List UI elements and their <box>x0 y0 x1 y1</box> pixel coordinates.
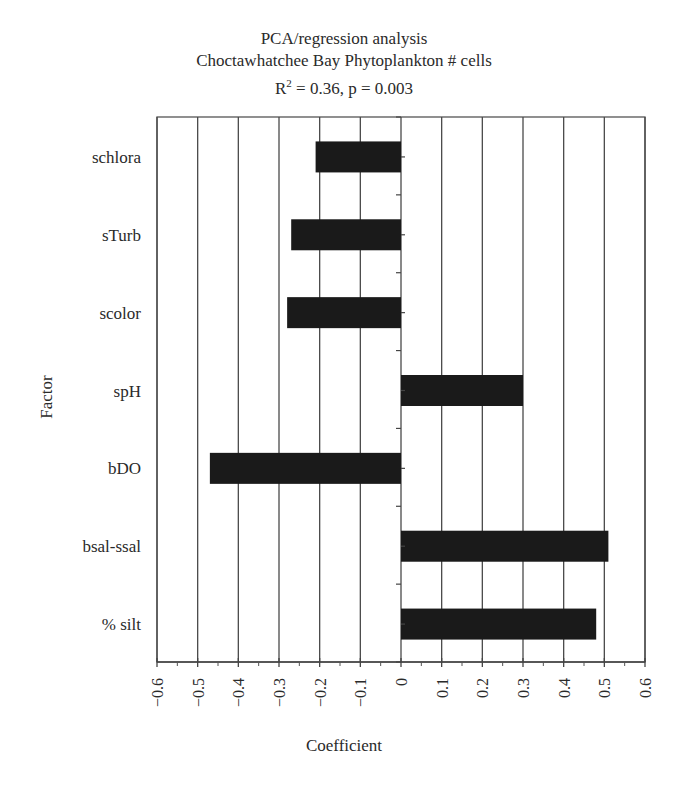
x-tick-label: −0.2 <box>312 678 329 707</box>
category-label: bDO <box>108 459 141 478</box>
x-tick-label: 0.1 <box>434 678 451 698</box>
x-tick-label: −0.4 <box>230 678 247 707</box>
bar-scolor <box>287 297 401 328</box>
y-axis-title: Factor <box>37 375 57 418</box>
category-label: % silt <box>102 615 141 634</box>
bar-bsal-ssal <box>401 531 608 562</box>
category-label: sTurb <box>102 226 141 245</box>
x-axis-ticks: −0.6−0.5−0.4−0.3−0.2−0.100.10.20.30.40.5… <box>149 658 654 707</box>
x-tick-label: 0.3 <box>515 678 532 698</box>
category-label: schlora <box>92 148 142 167</box>
category-label: scolor <box>99 304 141 323</box>
x-tick-label: 0.4 <box>556 678 573 698</box>
category-label: bsal-ssal <box>82 537 141 556</box>
x-tick-label: −0.1 <box>352 678 369 707</box>
x-axis-title: Coefficient <box>0 736 688 756</box>
bar-schlora <box>316 141 401 172</box>
bar-chart: schlorasTurbscolorspHbDObsal-ssal% silt … <box>0 0 688 792</box>
x-tick-label: 0 <box>393 678 410 686</box>
bars <box>210 141 609 639</box>
bar-sph <box>401 375 523 406</box>
x-tick-label: 0.6 <box>637 678 654 698</box>
category-labels: schlorasTurbscolorspHbDObsal-ssal% silt <box>82 148 141 634</box>
x-tick-label: −0.5 <box>190 678 207 707</box>
x-tick-label: 0.5 <box>596 678 613 698</box>
bar-sturb <box>291 219 401 250</box>
bar-bdo <box>210 453 401 484</box>
x-tick-label: 0.2 <box>474 678 491 698</box>
bar--silt <box>401 609 596 640</box>
x-tick-label: −0.6 <box>149 678 166 707</box>
x-tick-label: −0.3 <box>271 678 288 707</box>
category-label: spH <box>114 382 141 401</box>
